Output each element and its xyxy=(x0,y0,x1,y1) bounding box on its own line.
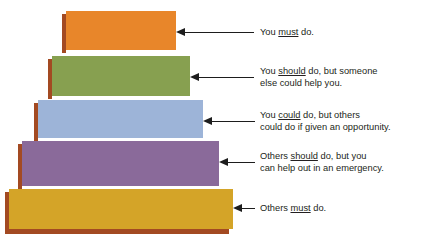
tier-2-label: You should do, but someoneelse could hel… xyxy=(260,65,378,89)
tier-1-face xyxy=(66,11,176,50)
tier-5-face xyxy=(9,189,233,229)
arrow-shaft xyxy=(197,77,254,78)
arrowhead-icon xyxy=(176,28,185,36)
arrow-to-tier-3 xyxy=(203,117,255,126)
pyramid-tier-2[interactable] xyxy=(52,56,190,96)
pyramid-tier-4[interactable] xyxy=(22,141,219,186)
tier-3-face xyxy=(38,100,203,138)
arrow-shaft xyxy=(240,208,255,209)
tier-1-label: You must do. xyxy=(260,26,314,38)
tier-5-bottom-shadow xyxy=(5,229,229,234)
arrow-to-tier-2 xyxy=(190,73,254,82)
tier-5-label: Others must do. xyxy=(260,202,326,214)
pyramid-tier-3[interactable] xyxy=(38,100,203,138)
arrow-shaft xyxy=(183,32,254,33)
arrowhead-icon xyxy=(233,204,242,212)
arrowhead-icon xyxy=(203,117,212,125)
arrowhead-icon xyxy=(219,158,228,166)
tier-3-label: You could do, but otherscould do if give… xyxy=(260,109,391,133)
arrow-to-tier-5 xyxy=(233,204,255,213)
arrow-shaft xyxy=(226,162,255,163)
arrow-to-tier-1 xyxy=(176,28,254,37)
tier-2-face xyxy=(52,56,190,96)
arrow-to-tier-4 xyxy=(219,158,255,167)
tier-4-label: Others should do, but youcan help out in… xyxy=(260,150,384,174)
tier-4-face xyxy=(22,141,219,186)
arrow-shaft xyxy=(210,121,255,122)
pyramid-tier-1[interactable] xyxy=(66,11,176,50)
arrowhead-icon xyxy=(190,73,199,81)
pyramid-tier-5[interactable] xyxy=(9,189,233,229)
pyramid-diagram: You must do. You should do, but someonee… xyxy=(0,0,434,237)
